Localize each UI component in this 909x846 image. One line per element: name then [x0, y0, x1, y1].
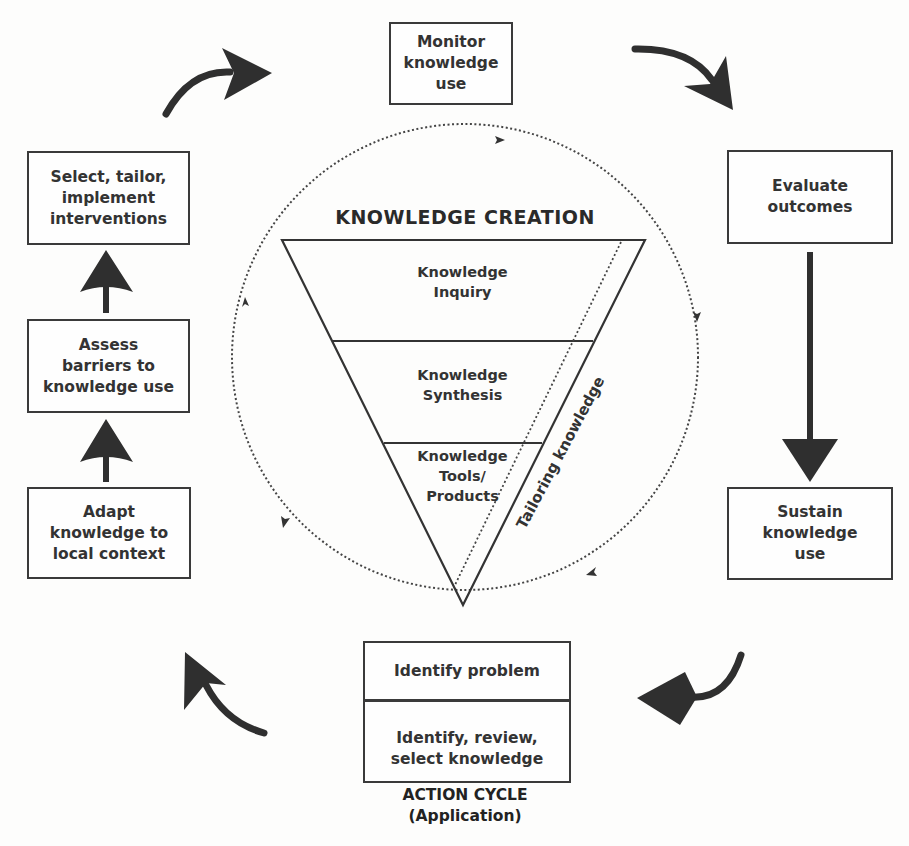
step-sustain-knowledge-use: Sustain knowledge use	[727, 487, 893, 580]
circle-arrowhead-bottom-left	[281, 516, 290, 528]
action-center-box: Identify problem Identify, review, selec…	[363, 641, 571, 783]
arrow-evaluate-to-sustain	[782, 252, 838, 482]
arrow-monitor-to-evaluate	[635, 49, 733, 110]
arrow-action-to-adapt	[184, 652, 264, 733]
step-adapt-knowledge: Adapt knowledge to local context	[27, 487, 191, 579]
tier-knowledge-tools-products: Knowledge Tools/ Products	[400, 446, 525, 506]
arrow-select-to-monitor	[166, 48, 272, 114]
tier-knowledge-inquiry: Knowledge Inquiry	[400, 262, 525, 302]
tier-knowledge-synthesis: Knowledge Synthesis	[400, 365, 525, 405]
knowledge-to-action-diagram: Tailoring knowledge	[0, 0, 909, 846]
identify-review-select-knowledge: Identify, review, select knowledge	[365, 702, 569, 782]
knowledge-cycle-circle	[232, 124, 698, 590]
step-select-tailor-implement: Select, tailor, implement interventions	[27, 151, 190, 245]
circle-arrowhead-bottom-right	[586, 567, 597, 576]
tailoring-knowledge-label: Tailoring knowledge	[513, 373, 609, 532]
arrow-assess-to-select	[80, 250, 133, 313]
arrow-adapt-to-assess	[80, 419, 133, 482]
knowledge-creation-title: KNOWLEDGE CREATION	[300, 206, 630, 228]
action-cycle-title: ACTION CYCLE (Application)	[340, 785, 590, 827]
step-monitor-knowledge-use: Monitor knowledge use	[389, 22, 513, 105]
step-assess-barriers: Assess barriers to knowledge use	[27, 319, 190, 413]
step-evaluate-outcomes: Evaluate outcomes	[727, 150, 893, 244]
arrow-sustain-to-action	[637, 655, 741, 725]
circle-arrowhead-top	[495, 136, 505, 144]
identify-problem: Identify problem	[365, 643, 569, 702]
circle-arrowhead-left	[242, 297, 249, 307]
